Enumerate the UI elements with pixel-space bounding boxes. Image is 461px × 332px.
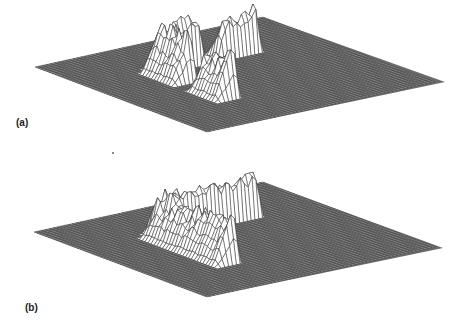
stray-mark [112,152,114,154]
surface-plot-a: (a) [0,0,461,166]
panel-label-b: (b) [25,302,38,313]
surface-plot-b: (b) [0,166,461,332]
surface-b-canvas [0,166,461,332]
surface-mesh [34,172,436,297]
surface-mesh [35,4,435,132]
surface-a-canvas [0,0,461,166]
panel-label-a: (a) [16,117,28,128]
